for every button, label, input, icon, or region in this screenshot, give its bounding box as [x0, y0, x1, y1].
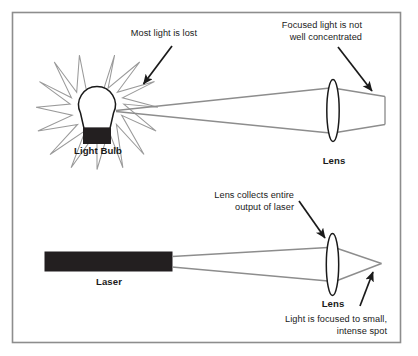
label-light-bulb: Light Bulb — [52, 145, 144, 156]
light-bulb-base — [84, 128, 111, 144]
top-lens-output-upper — [336, 89, 385, 97]
figure-border — [13, 13, 401, 343]
bulb-beam-rays — [116, 88, 330, 111]
top-lens-output-lower — [336, 125, 385, 133]
pointer-arrow-icon-loss — [144, 46, 173, 84]
label-laser: Laser — [73, 276, 145, 287]
laser-bar-icon — [45, 252, 172, 271]
laser-focus-upper — [336, 248, 382, 264]
optics-comparison-figure: Most light is lost Focused light is not … — [0, 0, 418, 356]
label-lens-bottom: Lens — [304, 298, 362, 309]
bulb-beam-rays-lower — [116, 112, 330, 134]
annotation-most-light-lost: Most light is lost — [104, 28, 224, 39]
laser-beam-lower — [172, 267, 328, 281]
lens-ellipse-icon-top — [327, 80, 339, 142]
laser-beam-upper — [172, 248, 328, 257]
laser-focus-lower — [336, 264, 382, 282]
light-bulb-icon — [79, 86, 116, 128]
annotation-focused-light-line2: well concentrated — [250, 32, 362, 43]
annotation-lens-collects-line1: Lens collects entire — [182, 190, 294, 201]
label-lens-top: Lens — [305, 155, 363, 166]
annotation-intense-spot-line2: intense spot — [252, 326, 387, 337]
pointer-arrow-icon-focus — [338, 47, 372, 91]
lens-ellipse-icon-bottom — [326, 234, 338, 296]
pointer-arrow-icon-collect — [299, 201, 325, 238]
annotation-intense-spot-line1: Light is focused to small, — [252, 314, 387, 325]
annotation-lens-collects-line2: output of laser — [182, 202, 294, 213]
annotation-focused-light-line1: Focused light is not — [250, 20, 362, 31]
